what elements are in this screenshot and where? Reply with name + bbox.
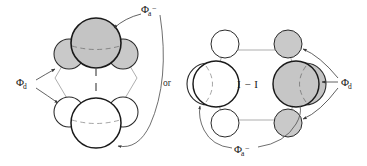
lobe-right-center — [273, 61, 319, 107]
orbital-interaction-figure: Φ a − Φ d or — [0, 0, 367, 166]
label-or-connector: or — [163, 78, 172, 88]
label-bond-center: I − I — [237, 78, 259, 90]
lobe-left-bottom — [211, 109, 239, 137]
label-phi-d-right-subscript: d — [348, 82, 352, 91]
lobe-top-center — [71, 18, 121, 68]
lobe-left-center — [193, 61, 239, 107]
lobe-bottom-center — [71, 98, 121, 148]
label-phi-a-bottom-superscript: − — [245, 144, 250, 153]
label-phi-d-left-subscript: d — [23, 82, 27, 91]
figure-canvas: Φ a − Φ d or — [0, 0, 367, 166]
lobe-right-top — [274, 30, 302, 58]
lobe-right-bottom — [274, 109, 302, 137]
label-phi-a-top-superscript: − — [152, 4, 157, 13]
lobe-left-top — [211, 30, 239, 58]
